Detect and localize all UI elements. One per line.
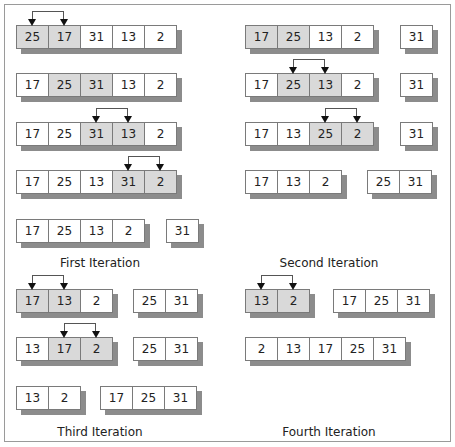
array-cell: 13 (112, 122, 145, 146)
array-cell: 31 (80, 122, 113, 146)
array-cell: 2 (144, 73, 177, 97)
array-cell: 2 (112, 219, 145, 243)
array-cell: 25 (309, 122, 342, 146)
array-cell: 13 (277, 122, 310, 146)
array-cell: 31 (400, 73, 433, 97)
swap-arrow-icon (128, 156, 160, 168)
array-group: 17132 (245, 170, 342, 194)
array-group: 2531 (133, 289, 198, 313)
array-cell: 17 (245, 170, 278, 194)
array-cell: 17 (309, 337, 342, 361)
array-group: 2531 (367, 170, 432, 194)
array-cell: 13 (309, 73, 342, 97)
array-cell: 2 (80, 289, 113, 313)
array-cell: 31 (400, 25, 433, 49)
array-cell: 2 (144, 122, 177, 146)
array-cell: 2 (48, 386, 81, 410)
array-cell: 2 (80, 337, 113, 361)
array-cell: 25 (48, 170, 81, 194)
array-cell: 31 (165, 289, 198, 313)
array-cell: 13 (16, 337, 49, 361)
array-group: 31 (400, 73, 433, 97)
array-group: 172531132 (16, 73, 177, 97)
array-cell: 25 (48, 219, 81, 243)
array-cell: 17 (16, 122, 49, 146)
array-cell: 13 (112, 25, 145, 49)
array-cell: 17 (16, 219, 49, 243)
array-cell: 17 (245, 73, 278, 97)
swap-arrow-icon (32, 11, 64, 23)
array-cell: 25 (133, 289, 166, 313)
array-cell: 13 (277, 337, 310, 361)
array-cell: 17 (245, 122, 278, 146)
array-cell: 13 (277, 170, 310, 194)
array-cell: 2 (277, 289, 310, 313)
array-cell: 13 (245, 289, 278, 313)
swap-arrow-icon (293, 59, 325, 71)
array-cell: 13 (80, 170, 113, 194)
array-cell: 17 (16, 73, 49, 97)
array-cell: 2 (341, 25, 374, 49)
array-group: 172531132 (16, 122, 177, 146)
array-group: 31 (400, 122, 433, 146)
iteration-label: Third Iteration (0, 425, 200, 439)
array-cell: 25 (277, 25, 310, 49)
array-cell: 25 (132, 386, 165, 410)
array-cell: 17 (16, 170, 49, 194)
swap-arrow-icon (32, 275, 64, 287)
array-group: 213172531 (245, 337, 406, 361)
array-cell: 25 (365, 289, 398, 313)
array-cell: 31 (165, 337, 198, 361)
array-cell: 31 (166, 219, 199, 243)
array-cell: 17 (333, 289, 366, 313)
array-cell: 13 (309, 25, 342, 49)
array-group: 1725132 (245, 25, 374, 49)
array-cell: 25 (341, 337, 374, 361)
array-cell: 31 (399, 170, 432, 194)
array-group: 2531 (133, 337, 198, 361)
array-cell: 31 (397, 289, 430, 313)
array-cell: 2 (309, 170, 342, 194)
array-cell: 31 (373, 337, 406, 361)
swap-arrow-icon (64, 323, 96, 335)
array-group: 1725132 (16, 219, 145, 243)
array-cell: 17 (100, 386, 133, 410)
array-cell: 31 (400, 122, 433, 146)
array-cell: 13 (16, 386, 49, 410)
array-group: 132 (245, 289, 310, 313)
array-group: 13172 (16, 337, 113, 361)
iteration-label: Second Iteration (229, 256, 429, 270)
array-cell: 31 (112, 170, 145, 194)
array-group: 17132 (16, 289, 113, 313)
iteration-label: First Iteration (0, 256, 200, 270)
iteration-label: Fourth Iteration (229, 425, 429, 439)
array-cell: 25 (367, 170, 400, 194)
array-group: 31 (400, 25, 433, 49)
array-cell: 2 (144, 25, 177, 49)
array-cell: 31 (80, 73, 113, 97)
array-cell: 13 (112, 73, 145, 97)
array-cell: 2 (341, 73, 374, 97)
array-cell: 25 (277, 73, 310, 97)
array-cell: 13 (48, 289, 81, 313)
array-group: 172531 (100, 386, 197, 410)
array-cell: 25 (133, 337, 166, 361)
array-cell: 17 (245, 25, 278, 49)
array-group: 1713252 (245, 122, 374, 146)
array-group: 132 (16, 386, 81, 410)
array-group: 172513312 (16, 170, 177, 194)
array-cell: 17 (48, 337, 81, 361)
array-cell: 2 (341, 122, 374, 146)
array-cell: 25 (16, 25, 49, 49)
swap-arrow-icon (325, 108, 357, 120)
array-cell: 31 (80, 25, 113, 49)
swap-arrow-icon (261, 275, 293, 287)
array-group: 251731132 (16, 25, 177, 49)
array-cell: 17 (16, 289, 49, 313)
array-cell: 2 (144, 170, 177, 194)
array-group: 172531 (333, 289, 430, 313)
array-cell: 25 (48, 122, 81, 146)
array-cell: 25 (48, 73, 81, 97)
array-group: 1725132 (245, 73, 374, 97)
array-cell: 31 (164, 386, 197, 410)
